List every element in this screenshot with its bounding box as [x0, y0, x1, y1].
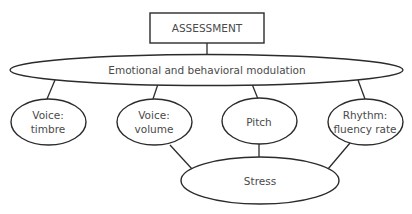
stress-label: Stress	[244, 174, 276, 188]
timbre-label: Voice: timbre	[31, 108, 65, 136]
assessment-label: ASSESSMENT	[172, 21, 242, 35]
timbre-label-line1: Voice:	[31, 108, 65, 122]
volume-label-line1: Voice:	[135, 108, 174, 122]
edge-modulation-volume	[153, 84, 158, 99]
edge-modulation-timbre	[47, 80, 55, 99]
modulation-label: Emotional and behavioral modulation	[108, 63, 305, 77]
edge-modulation-pitch	[252, 84, 258, 99]
rhythm-label-line2: fluency rate	[333, 122, 396, 136]
volume-label: Voice: volume	[135, 108, 174, 136]
edge-modulation-rhythm	[358, 80, 365, 99]
timbre-label-line2: timbre	[31, 122, 65, 136]
volume-label-line2: volume	[135, 122, 174, 136]
pitch-label: Pitch	[246, 115, 272, 129]
pitch-label-line1: Pitch	[246, 115, 272, 129]
rhythm-label: Rhythm: fluency rate	[333, 108, 396, 136]
rhythm-label-line1: Rhythm:	[333, 108, 396, 122]
edge-rhythm-stress	[328, 143, 350, 169]
edge-volume-stress	[170, 145, 192, 169]
